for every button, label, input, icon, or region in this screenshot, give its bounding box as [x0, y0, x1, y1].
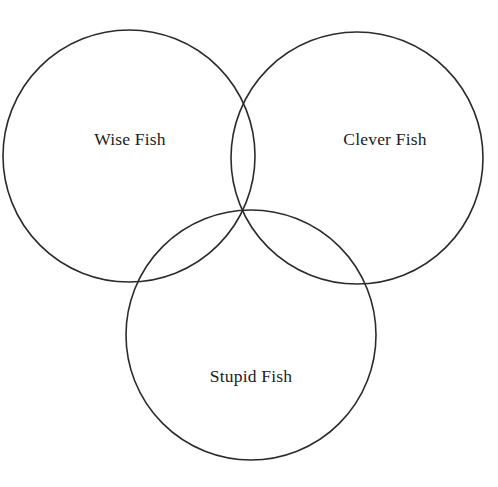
venn-circle-wise [3, 30, 255, 282]
venn-diagram-canvas: Wise Fish Clever Fish Stupid Fish [0, 0, 498, 487]
venn-label-wise: Wise Fish [94, 129, 166, 149]
venn-diagram: Wise Fish Clever Fish Stupid Fish [0, 0, 498, 487]
venn-label-clever: Clever Fish [343, 129, 426, 149]
venn-label-stupid: Stupid Fish [210, 366, 292, 386]
venn-circle-clever [231, 32, 483, 284]
venn-circle-stupid [126, 210, 376, 460]
